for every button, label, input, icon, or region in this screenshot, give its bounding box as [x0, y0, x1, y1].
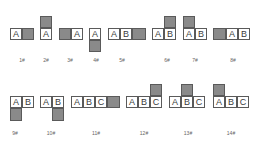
filled-cell [132, 28, 146, 40]
config-label: 3# [60, 57, 80, 63]
cell-a: A [40, 28, 52, 40]
cell-b: B [238, 28, 250, 40]
config-label: 14# [221, 130, 241, 136]
config-label: 1# [12, 57, 32, 63]
cell-b: B [225, 96, 237, 108]
filled-cell [183, 16, 195, 28]
cell-b: B [83, 96, 95, 108]
cell-a: A [71, 28, 83, 40]
filled-cell [150, 84, 162, 96]
cell-a: A [89, 28, 101, 40]
config-label: 6# [157, 57, 177, 63]
config-label: 11# [86, 130, 106, 136]
cell-c: C [237, 96, 249, 108]
filled-cell [213, 84, 225, 96]
config-label: 9# [5, 130, 25, 136]
cell-a: A [126, 96, 138, 108]
filled-cell [89, 40, 101, 52]
filled-cell [164, 16, 176, 28]
cell-b: B [181, 96, 193, 108]
cell-b: B [52, 96, 64, 108]
cell-c: C [193, 96, 205, 108]
cell-c: C [150, 96, 162, 108]
cell-b: B [138, 96, 150, 108]
filled-cell [22, 28, 34, 40]
config-label: 7# [185, 57, 205, 63]
filled-cell [59, 28, 71, 40]
cell-a: A [152, 28, 164, 40]
config-label: 4# [86, 57, 106, 63]
config-label: 2# [36, 57, 56, 63]
config-label: 5# [112, 57, 132, 63]
config-label: 13# [178, 130, 198, 136]
cell-a: A [71, 96, 83, 108]
filled-cell [213, 28, 226, 40]
cell-a: A [213, 96, 225, 108]
cell-b: B [22, 96, 34, 108]
cell-a: A [226, 28, 238, 40]
config-label: 12# [134, 130, 154, 136]
cell-a: A [10, 28, 22, 40]
cell-b: B [164, 28, 176, 40]
cell-a: A [183, 28, 195, 40]
config-label: 8# [223, 57, 243, 63]
filled-cell [107, 96, 120, 108]
filled-cell [40, 16, 52, 28]
filled-cell [52, 108, 64, 121]
config-label: 10# [41, 130, 61, 136]
cell-a: A [169, 96, 181, 108]
cell-a: A [108, 28, 120, 40]
cell-a: A [10, 96, 22, 108]
filled-cell [10, 108, 22, 121]
cell-b: B [195, 28, 207, 40]
cell-b: B [120, 28, 132, 40]
cell-a: A [40, 96, 52, 108]
cell-c: C [95, 96, 107, 108]
filled-cell [181, 84, 193, 96]
